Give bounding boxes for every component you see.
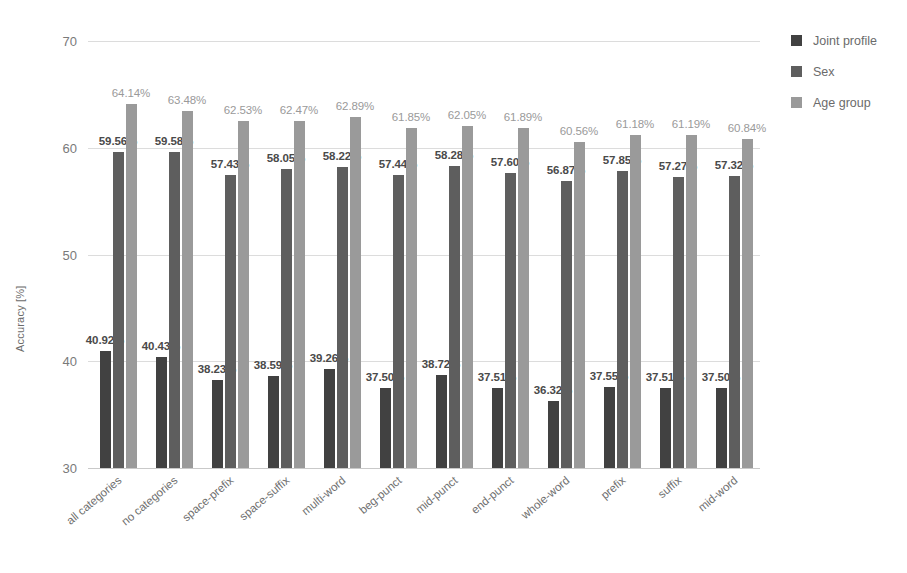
y-axis-tick-label: 50 — [63, 247, 77, 262]
y-axis-tick-label: 70 — [63, 34, 77, 49]
bar[interactable] — [518, 128, 529, 468]
legend-swatch-icon — [791, 35, 802, 46]
bar[interactable] — [548, 401, 559, 468]
bar[interactable] — [617, 171, 628, 468]
bar[interactable] — [324, 369, 335, 468]
x-axis-category-label: space-prefix — [180, 474, 236, 523]
bar[interactable] — [113, 152, 124, 468]
legend-label: Joint profile — [813, 34, 877, 48]
x-axis-category-label: prefix — [598, 474, 627, 501]
gridline: 30 — [88, 468, 760, 469]
bar-group — [436, 41, 473, 468]
bar[interactable] — [238, 121, 249, 468]
bar-group — [492, 41, 529, 468]
bar[interactable] — [630, 135, 641, 468]
bar[interactable] — [604, 387, 615, 468]
bar[interactable] — [212, 380, 223, 468]
bar-group — [604, 41, 641, 468]
bar[interactable] — [561, 181, 572, 468]
bar-chart: Accuracy [%] 3040506070 40.92%59.56%64.1… — [0, 0, 907, 573]
bar-group — [716, 41, 753, 468]
bar-group — [548, 41, 585, 468]
legend-label: Sex — [813, 65, 835, 79]
bar[interactable] — [281, 169, 292, 468]
x-axis-category-label: beg-punct — [357, 474, 404, 516]
y-axis-tick-label: 40 — [63, 354, 77, 369]
bar[interactable] — [492, 388, 503, 468]
bar-group — [212, 41, 249, 468]
legend-item[interactable]: Sex — [791, 59, 901, 84]
bar[interactable] — [406, 128, 417, 468]
bar[interactable] — [673, 177, 684, 468]
bar[interactable] — [380, 388, 391, 468]
bar[interactable] — [294, 121, 305, 468]
bar-group — [268, 41, 305, 468]
bar[interactable] — [716, 388, 727, 468]
bars-layer: 40.92%59.56%64.14%40.43%59.58%63.48%38.2… — [88, 41, 760, 468]
bar[interactable] — [182, 111, 193, 468]
y-axis-label-text: Accuracy [%] — [14, 192, 26, 352]
x-axis-category-label: mid-punct — [413, 474, 459, 516]
y-axis-tick-label: 30 — [63, 461, 77, 476]
bar[interactable] — [350, 117, 361, 468]
bar[interactable] — [742, 139, 753, 468]
plot-area: 3040506070 40.92%59.56%64.14%40.43%59.58… — [88, 41, 760, 468]
legend: Joint profileSexAge group — [791, 28, 901, 121]
x-axis-category-label: mid-word — [696, 474, 740, 514]
x-axis-category-label: no categories — [119, 474, 180, 528]
bar[interactable] — [100, 351, 111, 468]
bar[interactable] — [225, 175, 236, 468]
legend-label: Age group — [813, 96, 871, 110]
bar[interactable] — [574, 142, 585, 468]
y-axis-label: Accuracy [%] — [14, 76, 26, 236]
legend-item[interactable]: Joint profile — [791, 28, 901, 53]
bar[interactable] — [268, 376, 279, 468]
legend-swatch-icon — [791, 66, 802, 77]
bar[interactable] — [449, 166, 460, 468]
bar[interactable] — [169, 152, 180, 468]
bar-group — [100, 41, 137, 468]
bar-group — [380, 41, 417, 468]
x-axis-category-label: multi-word — [299, 474, 347, 517]
bar[interactable] — [156, 357, 167, 468]
x-axis-category-label: space-suffix — [237, 474, 292, 523]
bar-group — [324, 41, 361, 468]
bar[interactable] — [126, 104, 137, 468]
bar[interactable] — [436, 375, 447, 468]
bar[interactable] — [686, 135, 697, 468]
bar[interactable] — [337, 167, 348, 468]
legend-item[interactable]: Age group — [791, 90, 901, 115]
x-axis-category-label: all categories — [64, 474, 124, 527]
bar[interactable] — [660, 388, 671, 468]
bar[interactable] — [505, 173, 516, 468]
x-axis-category-label: end-punct — [469, 474, 516, 516]
bar[interactable] — [729, 176, 740, 468]
x-axis-category-label: whole-word — [519, 474, 572, 521]
legend-swatch-icon — [791, 97, 802, 108]
bar[interactable] — [462, 126, 473, 468]
bar-group — [660, 41, 697, 468]
x-axis-category-label: suffix — [656, 474, 684, 500]
bar[interactable] — [393, 175, 404, 468]
y-axis-tick-label: 60 — [63, 140, 77, 155]
bar-group — [156, 41, 193, 468]
